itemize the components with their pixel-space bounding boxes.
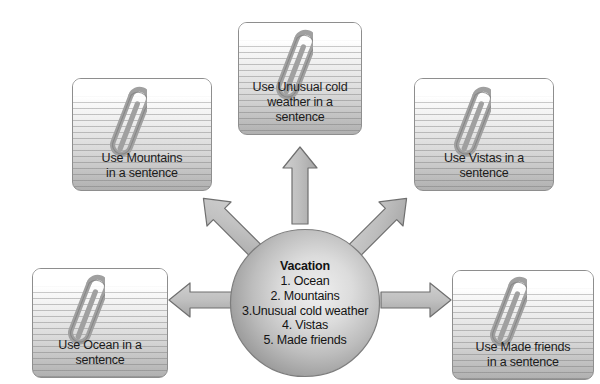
note-line-2: sentence [37, 353, 163, 368]
arrow-to-made-friends [378, 279, 454, 321]
note-line-1: Use Vistas in a [419, 151, 549, 166]
note-card-text: Use Unusual cold weather in a sentence [243, 80, 357, 125]
center-heading: Vacation [280, 259, 330, 274]
note-line-2: in a sentence [457, 355, 589, 370]
note-line-1: Use Made friends [457, 340, 589, 355]
note-card-text: Use Mountains in a sentence [77, 151, 207, 181]
note-line-2: sentence [419, 166, 549, 181]
note-card-vistas[interactable]: Use Vistas in a sentence [414, 78, 554, 191]
card-top-blank-area [415, 79, 553, 103]
note-card-mountains[interactable]: Use Mountains in a sentence [72, 78, 212, 191]
note-line-1: Use Ocean in a [37, 338, 163, 353]
card-top-blank-area [453, 271, 593, 295]
note-line-2: weather in a [243, 95, 357, 110]
note-card-text: Use Ocean in a sentence [37, 338, 163, 368]
center-item-3: 3.Unusual cold weather [242, 304, 368, 319]
note-card-text: Use Made friends in a sentence [457, 340, 589, 370]
center-node-vacation[interactable]: Vacation 1. Ocean 2. Mountains 3.Unusual… [229, 228, 381, 378]
card-top-blank-area [33, 269, 167, 293]
note-line-1: Use Unusual cold [243, 80, 357, 95]
note-line-3: sentence [243, 110, 357, 125]
note-card-unusual-cold-weather[interactable]: Use Unusual cold weather in a sentence [238, 22, 362, 135]
center-item-4: 4. Vistas [282, 318, 328, 333]
arrow-to-unusual-cold-weather [279, 144, 321, 228]
center-item-2: 2. Mountains [270, 289, 339, 304]
center-item-1: 1. Ocean [280, 274, 329, 289]
note-card-text: Use Vistas in a sentence [419, 151, 549, 181]
center-node-content: Vacation 1. Ocean 2. Mountains 3.Unusual… [229, 228, 381, 378]
card-top-blank-area [73, 79, 211, 103]
diagram-canvas: Vacation 1. Ocean 2. Mountains 3.Unusual… [0, 0, 600, 384]
card-top-blank-area [239, 23, 361, 47]
center-item-5: 5. Made friends [263, 333, 346, 348]
note-card-made-friends[interactable]: Use Made friends in a sentence [452, 270, 594, 380]
note-line-1: Use Mountains [77, 151, 207, 166]
note-card-ocean[interactable]: Use Ocean in a sentence [32, 268, 168, 378]
note-line-2: in a sentence [77, 166, 207, 181]
